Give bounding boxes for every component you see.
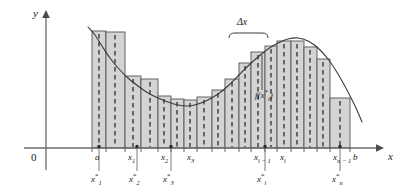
delta-x-label: Δx xyxy=(237,16,247,27)
y-axis-arrowhead xyxy=(42,10,50,18)
sample-point-label: x*i xyxy=(257,172,266,186)
sample-point-dot xyxy=(338,145,341,148)
sample-point-label: x*1 xyxy=(91,172,102,186)
riemann-rectangle xyxy=(225,79,239,148)
x-tick-label: x1 xyxy=(128,152,135,164)
x-tick-label-subscript: 2 xyxy=(165,157,168,164)
x-tick-label: xi − 1 xyxy=(254,152,271,164)
riemann-rectangle xyxy=(106,32,125,148)
riemann-sum-figure: y x 0 Δx f(x*i) ax1x2x3xi − 1xixn − 1b x… xyxy=(0,0,416,193)
function-value-close: ) xyxy=(270,90,273,100)
sample-point-label-subscript: 2 xyxy=(137,179,140,186)
sample-point-label: x*n xyxy=(332,172,343,186)
x-tick-label: b xyxy=(353,152,358,162)
x-tick-label: xi xyxy=(280,152,286,164)
rectangles-group xyxy=(92,31,350,148)
figure-canvas xyxy=(0,0,416,193)
sample-point-label-subscript: 3 xyxy=(171,179,174,186)
sample-point-label: x*2 xyxy=(129,172,140,186)
x-tick-label: x3 xyxy=(187,152,194,164)
origin-label: 0 xyxy=(31,151,37,163)
function-value-open: f(x xyxy=(255,90,265,100)
sample-point-label-subscript: 1 xyxy=(99,179,102,186)
sample-point-dot xyxy=(169,145,172,148)
x-tick-label-subscript: 1 xyxy=(132,157,135,164)
sample-point-label-subscript: n xyxy=(340,179,343,186)
riemann-rectangle xyxy=(141,79,158,148)
sample-point-dot xyxy=(97,145,100,148)
x-axis-label: x xyxy=(388,150,393,162)
function-value-label: f(x*i) xyxy=(255,88,273,102)
sample-point-label-subscript: i xyxy=(265,179,267,186)
x-tick-label-text: b xyxy=(353,152,358,162)
x-tick-label: a xyxy=(95,152,100,162)
sample-point-label: x*3 xyxy=(163,172,174,186)
x-axis-arrowhead xyxy=(376,144,384,152)
x-tick-label: x2 xyxy=(161,152,168,164)
x-tick-label-subscript: i − 1 xyxy=(258,157,271,164)
x-tick-label-subscript: n − 1 xyxy=(337,157,351,164)
x-tick-label-text: a xyxy=(95,152,100,162)
sample-point-dot xyxy=(263,145,266,148)
sample-point-dot xyxy=(135,145,138,148)
y-axis-label: y xyxy=(33,7,38,19)
x-tick-label-subscript: 3 xyxy=(191,157,194,164)
delta-x-bracket xyxy=(229,33,268,38)
x-tick-label-subscript: i xyxy=(284,157,286,164)
x-tick-label: xn − 1 xyxy=(333,152,351,164)
